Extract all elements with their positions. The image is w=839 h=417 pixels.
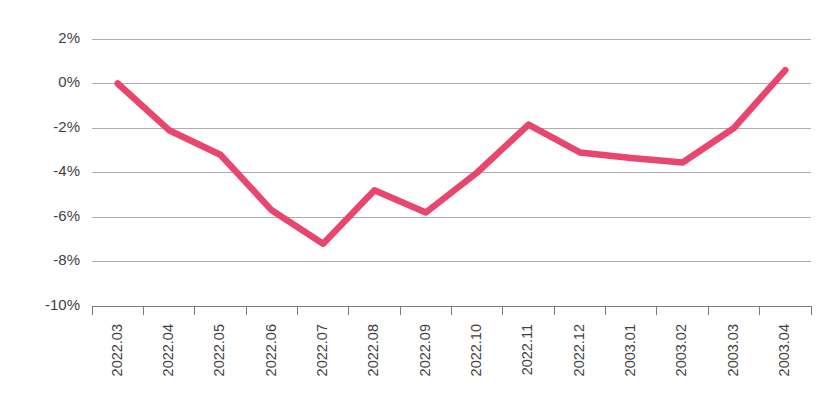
x-axis-tick-label: 2022.05 bbox=[211, 324, 227, 376]
x-axis-tick-label: 2022.09 bbox=[417, 324, 433, 376]
y-axis-tick-label: -4% bbox=[53, 162, 80, 179]
x-axis-group bbox=[92, 306, 811, 315]
x-axis-tick-label: 2003.04 bbox=[776, 324, 792, 376]
y-axis-tick-label: 2% bbox=[58, 29, 80, 46]
x-axis-tick-label: 2022.06 bbox=[263, 324, 279, 376]
data-series-group bbox=[118, 70, 786, 244]
x-axis-tick-label: 2022.03 bbox=[109, 324, 125, 376]
x-axis-tick-label: 2003.03 bbox=[725, 324, 741, 376]
x-axis-tick-label: 2022.07 bbox=[314, 324, 330, 376]
y-axis-tick-label: -2% bbox=[53, 118, 80, 135]
y-axis-labels-group: 2%0%-2%-4%-6%-8%-10% bbox=[45, 29, 80, 313]
x-axis-labels-group: 2022.032022.042022.052022.062022.072022.… bbox=[109, 324, 793, 376]
data-line-series-1 bbox=[118, 70, 786, 244]
x-axis-tick-label: 2003.02 bbox=[673, 324, 689, 376]
x-axis-tick-label: 2022.08 bbox=[365, 324, 381, 376]
x-axis-tick-label: 2022.04 bbox=[160, 324, 176, 376]
x-axis-tick-label: 2003.01 bbox=[622, 324, 638, 376]
gridlines-group bbox=[92, 39, 811, 306]
x-axis-tick-label: 2022.12 bbox=[571, 324, 587, 376]
y-axis-tick-label: -8% bbox=[53, 251, 80, 268]
y-axis-tick-label: -10% bbox=[45, 296, 80, 313]
x-axis-tick-label: 2022.11 bbox=[519, 324, 535, 375]
x-axis-tick-label: 2022.10 bbox=[468, 324, 484, 376]
line-chart: 2%0%-2%-4%-6%-8%-10% 2022.032022.042022.… bbox=[0, 0, 839, 417]
chart-canvas: 2%0%-2%-4%-6%-8%-10% 2022.032022.042022.… bbox=[0, 0, 839, 417]
y-axis-tick-label: -6% bbox=[53, 207, 80, 224]
y-axis-tick-label: 0% bbox=[58, 73, 80, 90]
